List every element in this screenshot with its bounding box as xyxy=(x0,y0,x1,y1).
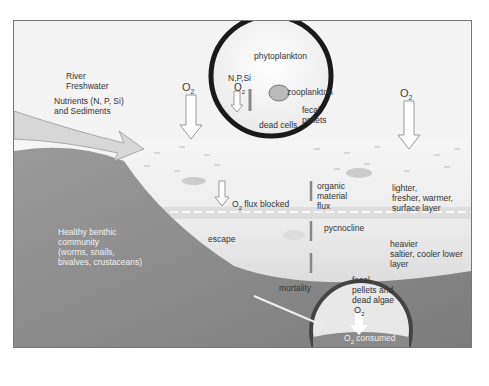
benthic-label: Healthy benthic community (worms, snails… xyxy=(58,227,142,267)
o2-right-label: O2 xyxy=(400,87,412,101)
escape-label: escape xyxy=(208,234,235,244)
inset-fecal-label: fecal pellets and dead algae xyxy=(352,275,394,305)
zooplankton-label: zooplankton xyxy=(287,87,333,97)
o2-consumed-label: O2 consumed xyxy=(344,333,396,347)
river-label: River Freshwater xyxy=(66,71,109,91)
o2-left-label: O2 xyxy=(182,81,194,95)
phytoplankton-label: phytoplankton xyxy=(254,51,307,61)
inset-o2-label: O2 xyxy=(234,83,245,97)
nutrients-label: Nutrients (N, P, Si) and Sediments xyxy=(54,96,124,116)
dead-cells-label: dead cells xyxy=(259,120,297,130)
diagram-frame: River Freshwater Nutrients (N, P, Si) an… xyxy=(13,20,472,348)
inset-bottom-o2-label: O2 xyxy=(354,305,364,319)
o2-flux-blocked-label: O2 flux blocked xyxy=(232,199,289,213)
surface-layer-label: lighter, fresher, warmer, surface layer xyxy=(392,183,453,213)
fecal-pellets-label: fecal pellets xyxy=(302,105,327,125)
mortality-label: mortality xyxy=(279,283,311,293)
organic-flux-label: organic material flux xyxy=(317,181,347,211)
pycnocline-label: pycnocline xyxy=(324,223,364,233)
lower-layer-label: heavier saltier, cooler lower layer xyxy=(390,239,463,269)
